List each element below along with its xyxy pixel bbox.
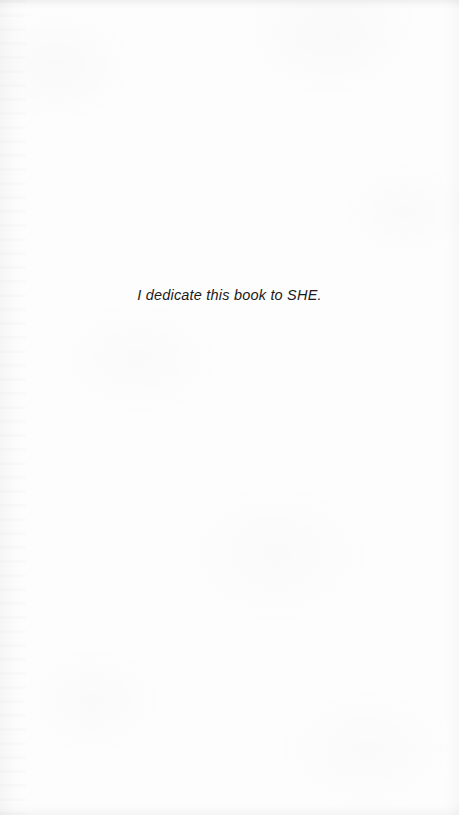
dedication-block: I dedicate this book to SHE. — [0, 286, 459, 304]
page-right-edge-shading — [445, 0, 459, 815]
dedication-page: I dedicate this book to SHE. — [0, 0, 459, 815]
dedication-text: I dedicate this book to SHE. — [137, 286, 322, 304]
paper-texture — [0, 0, 459, 815]
page-left-gutter-shading — [0, 0, 26, 815]
page-bottom-edge-shading — [0, 803, 459, 815]
page-top-edge-shading — [0, 0, 459, 10]
